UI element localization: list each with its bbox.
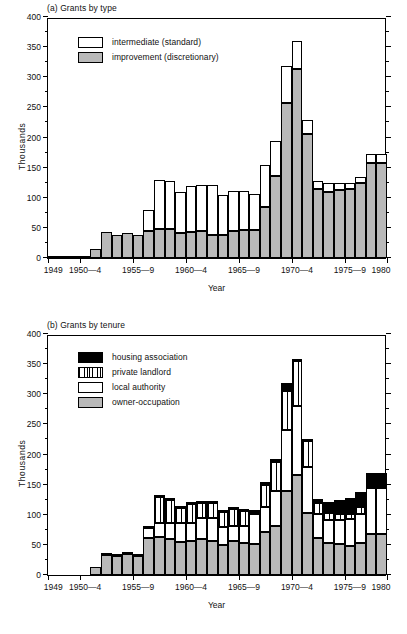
y-tick-right-major <box>386 484 391 485</box>
bar-segment <box>376 488 387 534</box>
bar-segment <box>302 120 313 134</box>
bar-segment <box>302 441 313 466</box>
bar <box>302 334 313 575</box>
y-axis-tick-label: 300 <box>27 389 41 399</box>
bar <box>323 334 334 575</box>
bar-segment <box>196 501 207 503</box>
bar-segment <box>323 183 334 191</box>
bar <box>59 17 70 258</box>
bar <box>281 334 292 575</box>
y-tick-major <box>43 454 48 455</box>
bar-segment <box>207 518 218 541</box>
x-axis-tick-label: 1950—4 <box>69 582 101 592</box>
bar-segment <box>249 512 260 514</box>
y-axis-tick-label: 150 <box>27 480 41 490</box>
y-tick-right-major <box>386 16 391 17</box>
bar-segment <box>334 520 345 544</box>
y-tick-minor <box>45 469 48 470</box>
y-tick-right-minor <box>386 212 389 213</box>
bar-segment <box>154 180 165 229</box>
y-tick-right-minor <box>386 408 389 409</box>
y-tick-right-minor <box>386 469 389 470</box>
bar-segment <box>239 191 250 231</box>
bar-segment <box>207 235 218 258</box>
panel-b-y-axis-title: Thousands <box>17 439 27 486</box>
x-axis-tick-label: 1980 <box>372 265 391 275</box>
x-axis-tick-label: 1980 <box>372 582 391 592</box>
bar-segment <box>239 230 250 258</box>
x-axis-tick-label: 1960—4 <box>175 582 207 592</box>
x-tick <box>133 258 134 263</box>
y-tick-major <box>43 76 48 77</box>
x-tick <box>80 258 81 263</box>
bar-segment <box>165 523 176 539</box>
y-tick-minor <box>45 31 48 32</box>
bar-segment <box>175 508 186 523</box>
y-tick-right-major <box>386 197 391 198</box>
y-tick-major <box>43 167 48 168</box>
bar-segment <box>249 510 260 512</box>
bar-segment <box>154 537 165 575</box>
bar-segment <box>154 495 165 497</box>
y-tick-minor <box>45 242 48 243</box>
bar <box>355 17 366 258</box>
bar-segment <box>175 542 186 575</box>
x-tick <box>48 258 49 263</box>
bar-segment <box>334 190 345 258</box>
bar-segment <box>196 231 207 258</box>
bar-segment <box>228 231 239 258</box>
bar-segment <box>355 183 366 258</box>
y-axis-tick-label: 250 <box>27 419 41 429</box>
bar <box>313 334 324 575</box>
y-axis-tick-label: 150 <box>27 163 41 173</box>
bar-segment <box>281 391 292 431</box>
bar-segment <box>334 514 345 519</box>
y-tick-minor <box>45 438 48 439</box>
bar-segment <box>186 502 197 504</box>
bar <box>334 334 345 575</box>
y-tick-right-major <box>386 76 391 77</box>
bar <box>281 17 292 258</box>
y-axis-tick-label: 300 <box>27 72 41 82</box>
bar-segment <box>302 513 313 575</box>
panel-a-x-axis-title: Year <box>208 283 225 293</box>
bar-segment <box>281 383 292 390</box>
bar-segment <box>207 503 218 518</box>
bar-segment <box>366 163 377 258</box>
y-tick-minor <box>45 182 48 183</box>
y-tick-right-minor <box>386 529 389 530</box>
legend-item: intermediate (standard) <box>78 36 219 48</box>
y-axis-tick-label: 250 <box>27 102 41 112</box>
figure-root: (a) Grants by type Thousands intermediat… <box>0 0 407 634</box>
bar-segment <box>260 165 271 207</box>
y-tick-right-major <box>386 423 391 424</box>
y-axis-tick-label: 350 <box>27 42 41 52</box>
bar <box>207 334 218 575</box>
bar-segment <box>133 235 144 258</box>
x-tick <box>292 258 293 263</box>
x-tick <box>345 575 346 580</box>
y-tick-major <box>43 514 48 515</box>
bar-segment <box>218 545 229 575</box>
bar <box>334 17 345 258</box>
bar <box>48 17 59 258</box>
bar-segment <box>112 554 123 556</box>
x-axis-tick-label: 1949 <box>44 582 63 592</box>
legend-swatch-intermediate <box>78 37 103 48</box>
bar-segment <box>196 539 207 575</box>
bar-segment <box>302 134 313 258</box>
bar <box>59 334 70 575</box>
bar-segment <box>366 154 377 164</box>
x-axis-tick-label: 1949 <box>44 265 63 275</box>
bar <box>228 334 239 575</box>
bar-segment <box>270 459 281 463</box>
bar-segment <box>186 504 197 523</box>
legend-item: private landlord <box>78 366 188 378</box>
bar <box>48 334 59 575</box>
bar-segment <box>313 189 324 258</box>
bar-segment <box>260 507 271 532</box>
x-tick <box>48 575 49 580</box>
bar-segment <box>154 497 165 524</box>
bar-segment <box>196 185 207 231</box>
bar-segment <box>281 66 292 102</box>
